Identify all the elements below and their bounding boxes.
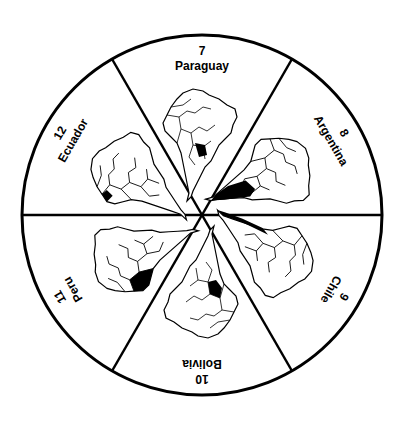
segment-country-label: Bolivia <box>182 357 222 371</box>
segment-country-label: Paraguay <box>175 59 229 73</box>
segment-number: 10 <box>195 372 209 386</box>
country-wheel-diagram: 7 Paraguay 8 Argentina 9 Chile 10 Bolivi… <box>0 0 397 421</box>
segment-number: 7 <box>199 44 206 58</box>
